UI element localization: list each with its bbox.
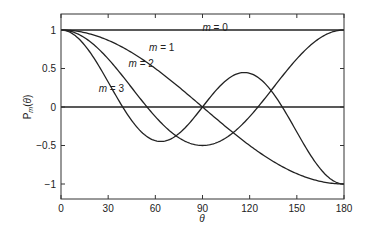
curve-label: m = 1 — [149, 42, 175, 53]
curve-labels: m = 0m = 1m = 2m = 3 — [99, 22, 229, 94]
x-axis-label: θ — [199, 213, 205, 224]
plot-curves — [61, 30, 344, 184]
curve-label: m = 2 — [129, 58, 155, 69]
y-tick-label: −1 — [45, 179, 57, 190]
x-tick-label: 120 — [241, 203, 258, 214]
legendre-chart: 0306090120150180−1−0.500.51 m = 0m = 1m … — [0, 0, 370, 240]
y-tick-label: 0 — [50, 102, 56, 113]
x-tick-label: 30 — [103, 203, 115, 214]
y-tick-label: −0.5 — [36, 140, 56, 151]
y-axis-label: Pm(θ) — [22, 95, 34, 120]
y-tick-label: 0.5 — [42, 63, 56, 74]
x-tick-label: 150 — [288, 203, 305, 214]
x-tick-label: 60 — [150, 203, 162, 214]
x-tick-label: 180 — [336, 203, 353, 214]
y-tick-label: 1 — [50, 25, 56, 36]
x-tick-label: 0 — [58, 203, 64, 214]
curve-label: m = 0 — [203, 22, 229, 33]
curve-label: m = 3 — [99, 83, 125, 94]
